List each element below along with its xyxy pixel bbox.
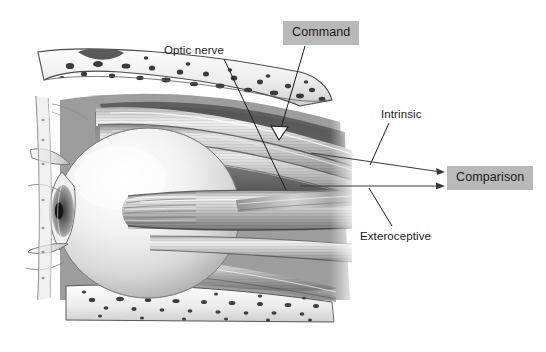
comparison-label-box[interactable]: Comparison [447,166,533,190]
optic-nerve-label: Optic nerve [164,45,224,57]
command-label-box[interactable]: Command [283,21,359,45]
intrinsic-label: Intrinsic [381,109,422,121]
figure-canvas: Command Comparison Optic nerve Intrinsic… [0,0,546,352]
exteroceptive-label: Exteroceptive [360,231,431,243]
illustration-right-fade [330,58,370,324]
